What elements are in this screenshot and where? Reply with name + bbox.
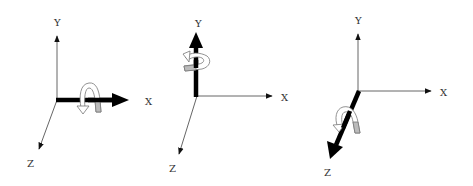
diagram-rotation-about-z: Y X Z (324, 15, 448, 178)
y-axis-label: Y (53, 17, 61, 28)
z-axis-label: Z (324, 167, 331, 178)
diagram-rotation-about-x: Y X Z (27, 17, 153, 169)
coordinate-rotation-diagrams: Y X Z Y X Z (0, 0, 473, 186)
z-axis (39, 100, 57, 149)
z-axis-label: Z (169, 163, 176, 174)
z-axis-label: Z (27, 158, 34, 169)
x-axis-label: X (145, 96, 153, 107)
x-axis-label: X (281, 92, 289, 103)
y-axis-label: Y (354, 15, 362, 26)
x-axis-label: X (440, 87, 448, 98)
diagram-rotation-about-y: Y X Z (169, 18, 289, 174)
rotation-arrow-icon (333, 107, 360, 133)
y-axis-label: Y (194, 18, 202, 29)
y-axis-arrowhead-icon (189, 32, 203, 48)
z-axis (179, 96, 197, 154)
rotation-arrow-icon (183, 51, 210, 71)
rotation-arrow-icon (77, 83, 115, 114)
